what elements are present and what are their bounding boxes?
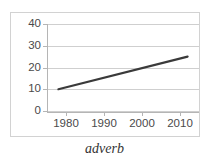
series-line-adverb (11, 13, 201, 138)
figure-caption: adverb (0, 142, 209, 156)
figure: 40 30 20 10 0 1980 1990 2000 2010 adverb (0, 0, 209, 167)
chart-frame: 40 30 20 10 0 1980 1990 2000 2010 (10, 12, 200, 137)
